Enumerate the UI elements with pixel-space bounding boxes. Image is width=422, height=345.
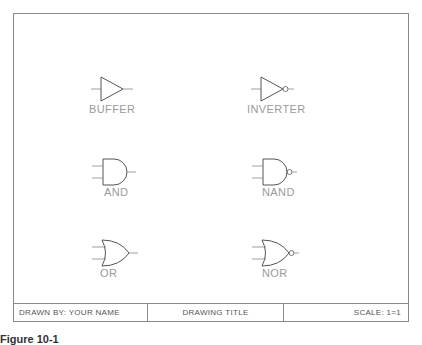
nand-gate: NAND — [252, 157, 302, 187]
or-label: OR — [100, 267, 117, 279]
or-symbol-icon — [92, 238, 144, 268]
nand-label: NAND — [262, 186, 295, 198]
drawing-sheet: BUFFER INVERTER AND NAND — [13, 13, 409, 322]
nor-gate: NOR — [252, 238, 304, 268]
and-label: AND — [104, 186, 128, 198]
drawing-title-field: DRAWING TITLE — [148, 304, 284, 321]
buffer-label: BUFFER — [89, 103, 135, 115]
title-block: DRAWN BY: YOUR NAME DRAWING TITLE SCALE:… — [14, 303, 408, 321]
buffer-gate: BUFFER — [91, 74, 141, 104]
drawn-by-field: DRAWN BY: YOUR NAME — [14, 304, 148, 321]
inverter-gate: INVERTER — [251, 74, 301, 104]
nor-label: NOR — [262, 267, 288, 279]
scale-field: SCALE: 1=1 — [284, 304, 408, 321]
inverter-symbol-icon — [251, 74, 301, 104]
and-symbol-icon — [92, 157, 142, 187]
buffer-symbol-icon — [91, 74, 141, 104]
figure-caption: Figure 10-1 — [0, 333, 59, 345]
nand-symbol-icon — [252, 157, 302, 187]
nor-symbol-icon — [252, 238, 304, 268]
inverter-label: INVERTER — [247, 103, 306, 115]
or-gate: OR — [92, 238, 144, 268]
and-gate: AND — [92, 157, 142, 187]
